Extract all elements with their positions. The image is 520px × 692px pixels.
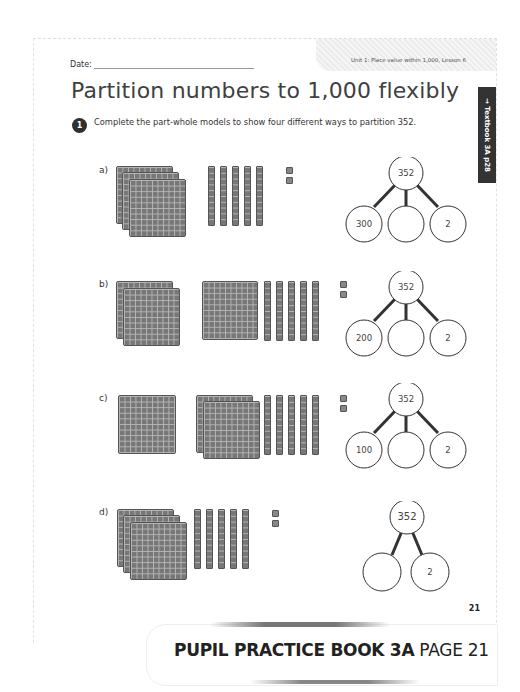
one-cube <box>286 167 293 174</box>
whole-value: 352 <box>398 394 414 404</box>
part-d: d) 352 2 <box>34 499 496 609</box>
ten-rod <box>230 509 237 569</box>
part-whole-model: 352 100 2 <box>342 383 472 471</box>
date-line <box>94 68 254 69</box>
hundred-block <box>129 179 186 237</box>
ten-rod <box>276 281 283 341</box>
page-title: Partition numbers to 1,000 flexibly <box>71 78 459 103</box>
answer-circle[interactable] <box>388 320 424 356</box>
ten-rod <box>244 166 251 226</box>
page-number: 21 <box>469 604 480 613</box>
banner-decoration <box>250 680 420 684</box>
part-value: 2 <box>427 567 432 577</box>
banner-decoration <box>210 622 390 627</box>
answer-circle[interactable] <box>388 432 424 468</box>
hundred-block <box>203 401 260 459</box>
answer-circle[interactable] <box>388 206 424 242</box>
worksheet-page: Date: Unit 1: Place value within 1,000, … <box>33 38 497 643</box>
part-whole-model: 352 2 <box>352 501 462 593</box>
part-value: 2 <box>445 219 450 229</box>
ten-rod <box>288 281 295 341</box>
ten-rod <box>256 166 263 226</box>
hundred-block <box>118 395 176 454</box>
part-label: d) <box>99 507 108 517</box>
ten-rod <box>218 509 225 569</box>
banner-caption: PUPIL PRACTICE BOOK 3A PAGE 21 <box>174 640 489 660</box>
answer-circle[interactable] <box>363 553 401 591</box>
part-a: a) 352 300 2 <box>34 157 496 267</box>
one-cube <box>272 520 279 527</box>
part-whole-model: 352 300 2 <box>342 157 472 245</box>
question-number-badge: 1 <box>72 118 87 133</box>
ten-rod <box>242 509 249 569</box>
part-c: c) 352 100 2 <box>34 385 496 495</box>
whole-value: 352 <box>398 282 414 292</box>
part-value: 2 <box>445 333 450 343</box>
banner-book-title: PUPIL PRACTICE BOOK 3A <box>174 640 414 660</box>
part-label: b) <box>99 279 108 289</box>
ten-rod <box>232 166 239 226</box>
ten-rod <box>312 395 319 455</box>
part-value: 200 <box>356 333 372 343</box>
ten-rod <box>194 509 201 569</box>
ten-rod <box>264 395 271 455</box>
ten-rod <box>220 166 227 226</box>
one-cube <box>286 177 293 184</box>
ten-rod <box>288 395 295 455</box>
banner-page: PAGE 21 <box>419 640 488 660</box>
ten-rod <box>206 509 213 569</box>
one-cube <box>272 510 279 517</box>
part-label: c) <box>99 393 107 403</box>
part-value: 2 <box>445 445 450 455</box>
date-label: Date: <box>70 60 92 69</box>
part-value: 100 <box>356 445 372 455</box>
ten-rod <box>300 395 307 455</box>
question-text: Complete the part-whole models to show f… <box>94 117 434 128</box>
hundred-block <box>123 288 180 346</box>
part-label: a) <box>99 165 108 175</box>
ten-rod <box>300 281 307 341</box>
part-b: b) 352 200 2 <box>34 271 496 381</box>
hundred-block <box>202 281 258 340</box>
ten-rod <box>276 395 283 455</box>
ten-rod <box>312 281 319 341</box>
unit-label: Unit 1: Place value within 1,000, Lesson… <box>351 57 466 63</box>
part-whole-model: 352 200 2 <box>342 271 472 359</box>
whole-value: 352 <box>397 511 416 522</box>
header-band <box>316 39 496 71</box>
hundred-block <box>130 522 187 580</box>
part-value: 300 <box>356 219 372 229</box>
whole-value: 352 <box>398 168 414 178</box>
ten-rod <box>264 281 271 341</box>
ten-rod <box>208 166 215 226</box>
